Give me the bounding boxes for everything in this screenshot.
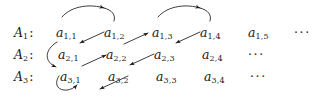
term-a-1-3: a1,3 (152, 27, 173, 41)
term-a-2-2: a2,2 (106, 49, 127, 63)
row-2-ellipsis: ··· (248, 49, 265, 62)
term-a-1-1-sub: 1,1 (63, 32, 76, 41)
arrow-arc-a11-to-a12-tail (104, 8, 115, 21)
term-a-2-1-sub: 2,1 (65, 54, 78, 63)
arrow-diag-a22-to-a13 (124, 33, 148, 44)
term-a-1-2-sub: 1,2 (111, 32, 124, 41)
term-a-2-2-sub: 2,2 (113, 54, 126, 63)
term-a-2-3-sub: 2,3 (161, 54, 174, 63)
term-a-1-5-sub: 1,5 (255, 32, 268, 41)
term-a-1-2: a1,2 (104, 27, 125, 41)
term-a-3-1-sub: 3,1 (67, 76, 80, 85)
arrow-diag-a31-to-a22 (82, 55, 106, 66)
term-a-2-1: a2,1 (58, 49, 79, 63)
diagonal-enumeration-figure: A1: a1,1 a1,2 a1,3 a1,4 a1,5 ··· A2: a2,… (0, 0, 325, 100)
arrow-curve-a21-to-a31 (47, 42, 57, 67)
row-label-a2-punct: : (29, 47, 33, 62)
arrow-arc-a11-to-a12 (62, 6, 104, 17)
row-label-a1: A1: (14, 27, 34, 41)
row-label-a1-punct: : (29, 25, 33, 40)
row-label-a3-punct: : (29, 69, 33, 84)
term-a-3-2: a3,2 (108, 71, 129, 85)
term-a-3-3-sub: 3,3 (163, 76, 176, 85)
term-a-3-1: a3,1 (60, 71, 81, 85)
row-label-a2: A2: (14, 49, 34, 63)
row-label-a3-base: A (14, 69, 23, 84)
arrow-arc-a13-to-a14 (158, 6, 200, 17)
term-a-1-5: a1,5 (248, 27, 269, 41)
term-a-3-4-sub: 3,4 (211, 76, 224, 85)
row-label-a2-sub: 2 (23, 54, 28, 63)
arrow-diag-a12-to-a21 (80, 32, 104, 43)
row-3-ellipsis: ··· (250, 71, 267, 84)
row-1-ellipsis: ··· (294, 27, 311, 40)
term-a-3-3: a3,3 (156, 71, 177, 85)
row-label-a2-base: A (14, 47, 23, 62)
term-a-3-4: a3,4 (204, 71, 225, 85)
term-a-1-1: a1,1 (56, 27, 77, 41)
term-a-2-4-sub: 2,4 (209, 54, 222, 63)
row-label-a1-sub: 1 (23, 32, 28, 41)
row-label-a3-sub: 3 (23, 76, 28, 85)
term-a-2-4: a2,4 (202, 49, 223, 63)
row-label-a3: A3: (14, 71, 34, 85)
term-a-3-2-sub: 3,2 (115, 76, 128, 85)
arrow-diag-a23-to-a32 (130, 54, 154, 65)
arrow-arc-a13-to-a14-tail (200, 8, 211, 21)
term-a-1-3-sub: 1,3 (159, 32, 172, 41)
arrow-diag-a14-to-a23 (176, 32, 200, 43)
row-label-a1-base: A (14, 25, 23, 40)
term-a-1-4: a1,4 (200, 27, 221, 41)
term-a-1-4-sub: 1,4 (207, 32, 220, 41)
term-a-2-3: a2,3 (154, 49, 175, 63)
